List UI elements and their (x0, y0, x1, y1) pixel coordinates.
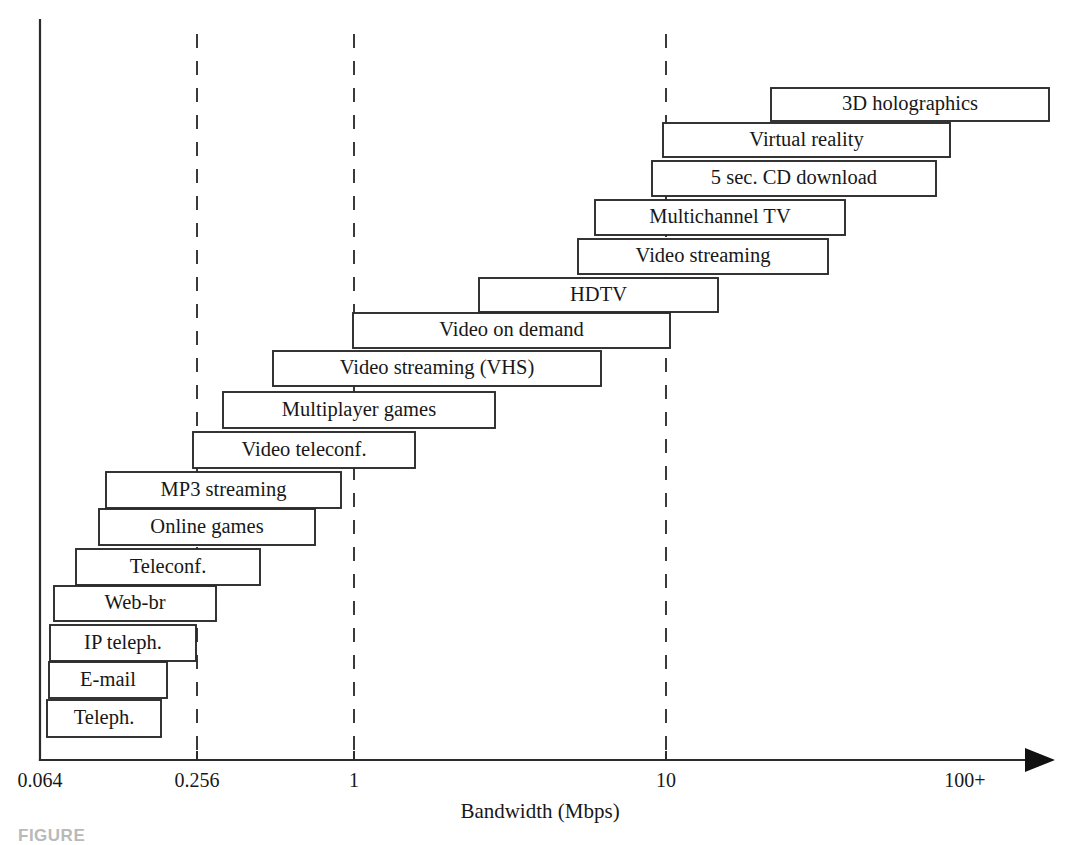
x-axis-title: Bandwidth (Mbps) (460, 799, 619, 823)
bar-label: Virtual reality (749, 128, 864, 151)
figure-caption: FIGURE (18, 826, 85, 845)
bar-label: Online games (150, 515, 263, 538)
x-axis-tick-labels-group: 0.0640.256110100+ (18, 769, 986, 791)
bar-label: Multiplayer games (282, 398, 436, 421)
bar-label: 3D holographics (842, 92, 978, 115)
bandwidth-bar-chart: 3D holographicsVirtual reality5 sec. CD … (0, 0, 1081, 845)
x-tick-label: 0.256 (175, 769, 220, 791)
bar-label: Video streaming (636, 244, 771, 267)
x-tick-label: 1 (349, 769, 359, 791)
bar-label: 5 sec. CD download (711, 166, 877, 188)
x-tick-label: 100+ (944, 769, 985, 791)
bar-label: Teleconf. (130, 555, 207, 577)
bar-label: Web-br (105, 591, 166, 613)
bar-label: Video streaming (VHS) (340, 356, 535, 379)
bar-label: Teleph. (74, 706, 135, 729)
figure-root: 3D holographicsVirtual reality5 sec. CD … (0, 0, 1081, 845)
x-tick-label: 0.064 (18, 769, 63, 791)
bar-label: HDTV (570, 283, 627, 305)
bar-label: E-mail (80, 668, 136, 690)
x-axis-arrow-icon (1025, 748, 1055, 772)
bar-label: Video teleconf. (241, 438, 366, 460)
bar-label: IP teleph. (84, 631, 162, 654)
bar-label: Multichannel TV (649, 205, 791, 227)
bar-label: Video on demand (439, 318, 584, 340)
x-tick-label: 10 (656, 769, 676, 791)
x-axis-ticks-group (40, 751, 666, 760)
bar-label: MP3 streaming (161, 478, 287, 501)
